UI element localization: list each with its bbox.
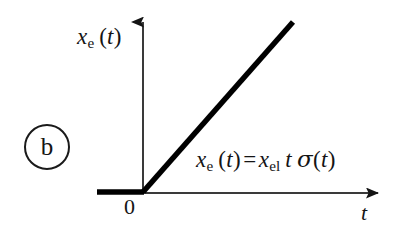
equation-rhs-sigma: σ — [297, 146, 313, 172]
equation-rhs-sub: el — [269, 157, 280, 174]
equation-annotation: xe(t)=xeltσ(t) — [196, 146, 336, 175]
y-axis-label-sub: e — [87, 34, 94, 51]
equation-rhs-t: t — [285, 147, 292, 172]
equation-lhs-sub: e — [207, 157, 214, 174]
y-axis-label-paren-close: ) — [114, 24, 122, 49]
origin-tick-label: 0 — [124, 194, 135, 220]
y-axis-label: xe(t) — [77, 24, 122, 52]
plot-area — [0, 0, 406, 232]
equation-lhs-var: x — [196, 147, 207, 172]
equation-equals: = — [241, 147, 259, 172]
y-axis-label-arg: t — [107, 24, 114, 49]
equation-lhs-paren-close: ) — [233, 147, 241, 172]
equation-rhs-paren-close: ) — [328, 147, 336, 172]
equation-rhs-paren-open: ( — [313, 147, 321, 172]
y-axis-label-paren-open: ( — [99, 24, 107, 49]
y-axis-label-var: x — [77, 24, 87, 49]
equation-rhs-var: x — [259, 147, 270, 172]
figure-ramp-function: b xe(t) t 0 xe(t)=xeltσ(t) — [0, 0, 406, 232]
x-axis-label: t — [361, 200, 367, 226]
equation-rhs-arg: t — [321, 147, 328, 172]
equation-lhs-arg: t — [226, 147, 233, 172]
